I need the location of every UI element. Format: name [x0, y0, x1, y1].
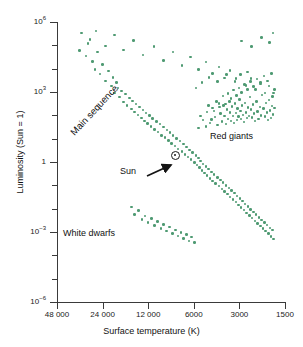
data-point	[261, 94, 264, 97]
data-point	[258, 216, 261, 219]
data-point	[165, 230, 168, 233]
data-point	[266, 224, 269, 227]
y-tick	[52, 69, 57, 70]
data-point	[266, 111, 269, 114]
y-tick	[52, 139, 57, 140]
data-point	[196, 164, 199, 167]
data-point	[166, 129, 169, 132]
data-point	[148, 114, 151, 117]
data-point	[244, 102, 247, 105]
data-point	[227, 118, 230, 121]
data-point	[254, 220, 257, 223]
data-point	[169, 131, 172, 134]
x-tick	[285, 303, 286, 309]
data-point	[229, 111, 232, 114]
data-point	[175, 137, 178, 140]
x-tick	[239, 303, 240, 309]
data-point	[233, 192, 236, 195]
data-point	[101, 63, 104, 66]
data-point	[197, 157, 200, 160]
data-point	[272, 32, 275, 35]
data-point	[238, 87, 241, 90]
y-tick	[52, 279, 57, 280]
data-point	[131, 100, 134, 103]
data-point	[239, 110, 242, 113]
data-point	[172, 51, 175, 54]
data-point	[206, 174, 209, 177]
data-point	[181, 150, 184, 153]
data-point	[191, 151, 194, 154]
data-point	[197, 127, 200, 130]
data-point	[260, 114, 263, 117]
y-tick	[52, 115, 57, 116]
data-point	[264, 230, 267, 233]
data-point	[240, 91, 243, 94]
data-point	[222, 95, 225, 98]
data-point	[115, 81, 118, 84]
data-point	[120, 90, 123, 93]
data-point	[137, 114, 140, 117]
data-point	[221, 120, 224, 123]
data-point	[206, 111, 209, 114]
data-point	[180, 231, 183, 234]
data-point	[243, 121, 246, 124]
data-point	[245, 212, 248, 215]
data-point	[240, 206, 243, 209]
data-point	[143, 120, 146, 123]
data-point	[137, 209, 140, 212]
data-point	[95, 30, 98, 33]
annotation-white-dwarfs: White dwarfs	[63, 228, 115, 238]
y-tick	[52, 255, 57, 256]
data-point	[145, 112, 148, 115]
data-point	[167, 139, 170, 142]
data-point	[229, 196, 232, 199]
data-point	[141, 218, 144, 221]
data-point	[273, 107, 276, 110]
annotation-red-giants: Red giants	[210, 131, 253, 141]
data-point	[211, 107, 214, 110]
data-point	[190, 158, 193, 161]
data-point	[257, 118, 260, 121]
data-point	[263, 221, 266, 224]
y-tick-label: 10−3	[0, 228, 46, 236]
data-point	[202, 119, 205, 122]
data-point	[247, 106, 250, 109]
data-point	[91, 60, 94, 63]
data-point	[259, 81, 262, 84]
data-point	[202, 163, 205, 166]
data-point	[198, 166, 201, 169]
data-point	[267, 119, 270, 122]
data-point	[216, 80, 219, 83]
data-point	[240, 118, 243, 121]
data-point	[271, 229, 274, 232]
data-point	[96, 51, 99, 54]
data-point	[267, 232, 270, 235]
data-point	[251, 217, 254, 220]
data-point	[113, 34, 116, 37]
data-point	[210, 171, 213, 174]
y-tick	[50, 232, 57, 233]
y-tick	[50, 302, 57, 303]
data-point	[122, 49, 125, 52]
data-point	[248, 115, 251, 118]
data-point	[218, 102, 221, 105]
data-point	[160, 134, 163, 137]
data-point	[207, 168, 210, 171]
data-point	[172, 134, 175, 137]
data-point	[272, 92, 275, 95]
data-point	[222, 104, 225, 107]
data-point	[184, 153, 187, 156]
data-point	[235, 201, 238, 204]
data-point	[147, 221, 150, 224]
data-point	[218, 106, 221, 109]
data-point	[250, 108, 253, 111]
sun-symbol-marker	[171, 151, 180, 160]
data-point	[269, 109, 272, 112]
data-point	[214, 182, 217, 185]
data-point	[214, 116, 217, 119]
data-point	[188, 240, 191, 243]
data-point	[219, 112, 222, 115]
data-point	[273, 88, 276, 91]
data-point	[223, 77, 226, 80]
data-point	[201, 81, 204, 84]
